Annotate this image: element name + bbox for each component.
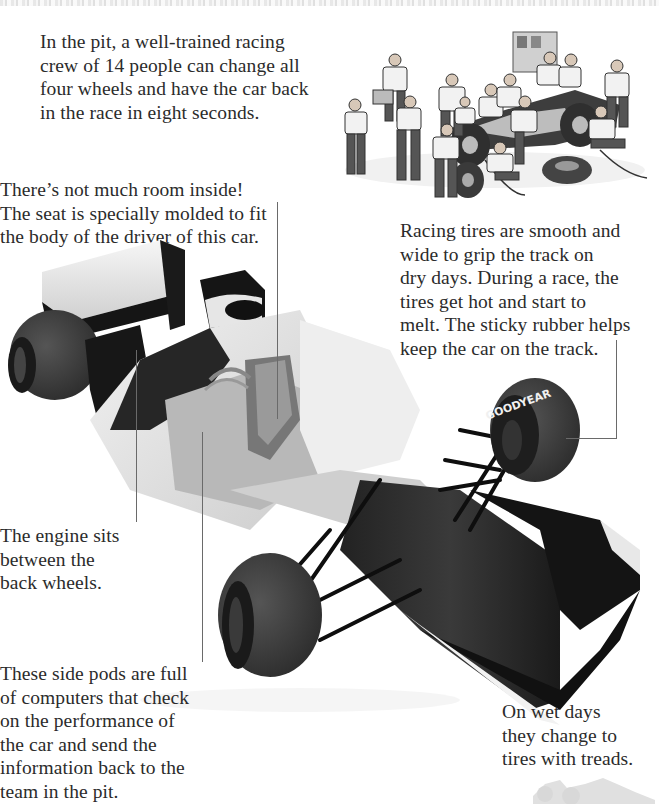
seat-leader-line [277, 202, 278, 419]
side-pods-leader-line [202, 432, 203, 662]
tires-leader-line-vertical [616, 340, 617, 438]
wet-tires-caption: On wet days they change to tires with tr… [502, 700, 633, 771]
car-silhouette-watermark [525, 770, 659, 804]
tires-leader-line-horizontal [566, 438, 617, 439]
scan-bleed-strip [0, 0, 659, 6]
engine-caption: The engine sits between the back wheels. [0, 524, 120, 595]
engine-leader-line [136, 350, 137, 522]
pit-crew-caption: In the pit, a well-trained racing crew o… [40, 30, 309, 124]
side-pods-caption: These side pods are full of computers th… [0, 662, 189, 803]
pit-crew-illustration [335, 20, 655, 200]
